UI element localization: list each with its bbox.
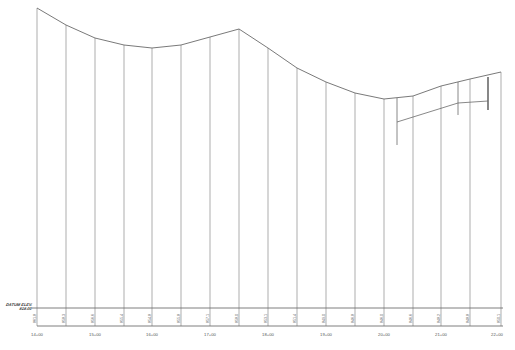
elevation-label: 855.8: [177, 314, 181, 323]
datum-value-text: 818.00: [4, 307, 32, 311]
station-label: 19+00: [320, 332, 332, 337]
elevation-label: 850.1: [497, 314, 501, 323]
elevation-label: 857.1: [206, 314, 210, 323]
proposed-profile-line: [397, 101, 488, 122]
datum-elevation-label: DATUM ELEV. 818.00: [4, 303, 32, 311]
elevation-label: 858.0: [235, 314, 239, 323]
elevation-label: 854.8: [148, 314, 152, 323]
station-label: 15+00: [89, 332, 101, 337]
elevation-label: 848.2: [437, 314, 441, 323]
elevation-label: 846.8: [351, 314, 355, 323]
station-label: 20+00: [378, 332, 390, 337]
elevation-label: 846.6: [409, 314, 413, 323]
elevation-label: 849.0: [322, 314, 326, 323]
ordinate-lines: [37, 8, 501, 326]
station-label: 14+00: [31, 332, 43, 337]
station-label: 16+00: [146, 332, 158, 337]
station-label: 18+00: [262, 332, 274, 337]
ground-profile-line: [37, 8, 501, 99]
proposed-profile: [397, 77, 488, 145]
elevation-labels: 861.8858.3856.6855.4854.8855.8857.1858.0…: [33, 314, 501, 323]
elevation-label: 846.0: [380, 314, 384, 323]
elevation-label: 855.4: [120, 314, 124, 323]
station-label: 21+00: [435, 332, 447, 337]
elevation-label: 851.4: [293, 314, 297, 323]
elevation-label: 858.3: [62, 314, 66, 323]
station-label: 17+00: [204, 332, 216, 337]
elevation-label: 861.8: [33, 314, 37, 323]
elevation-label: 853.1: [264, 314, 268, 323]
profile-drawing: 861.8858.3856.6855.4854.8855.8857.1858.0…: [0, 0, 515, 350]
station-label: 22+00: [491, 332, 503, 337]
elevation-label: 856.6: [91, 314, 95, 323]
station-labels: 14+0015+0016+0017+0018+0019+0020+0021+00…: [31, 332, 503, 337]
elevation-label: 848.8: [466, 314, 470, 323]
